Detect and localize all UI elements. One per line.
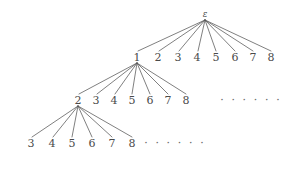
tree-node-level-0-root: ε xyxy=(203,10,208,19)
tree-node-level-1-3: 3 xyxy=(175,52,182,63)
tree-node-level-3-8: 8 xyxy=(129,138,136,149)
tree-node-level-3-4: 4 xyxy=(49,138,56,149)
tree-edge xyxy=(78,106,112,137)
tree-node-level-3-6: 6 xyxy=(89,138,96,149)
tree-node-level-1-5: 5 xyxy=(213,52,220,63)
tree-edge xyxy=(72,106,78,137)
tree-node-level-2-3: 3 xyxy=(93,95,100,106)
tree-edge xyxy=(137,63,168,94)
tree-edge xyxy=(159,20,205,51)
ellipsis-level-3: · · · · · · xyxy=(144,138,206,149)
tree-node-level-1-1: 1 xyxy=(134,52,141,63)
tree-node-level-2-8: 8 xyxy=(183,95,190,106)
tree-edge xyxy=(179,20,205,51)
tree-node-level-2-2: 2 xyxy=(75,95,82,106)
tree-edge xyxy=(138,20,205,51)
tree-edge xyxy=(205,20,235,51)
tree-edge xyxy=(32,106,78,137)
tree-edge xyxy=(137,63,186,94)
tree-node-level-3-3: 3 xyxy=(28,138,35,149)
tree-node-level-3-5: 5 xyxy=(69,138,76,149)
tree-node-level-2-7: 7 xyxy=(165,95,172,106)
tree-edges-layer xyxy=(0,0,287,178)
tree-diagram-figure: ε123456782345678· · · · · ·345678· · · ·… xyxy=(0,0,287,178)
tree-edge xyxy=(137,63,150,94)
tree-edge xyxy=(205,20,253,51)
tree-node-level-1-6: 6 xyxy=(232,52,239,63)
tree-edge xyxy=(205,20,271,51)
tree-edge xyxy=(132,63,137,94)
tree-node-level-1-8: 8 xyxy=(268,52,275,63)
tree-edge xyxy=(78,106,132,137)
tree-edge xyxy=(53,106,78,137)
tree-node-level-1-2: 2 xyxy=(155,52,162,63)
tree-edge xyxy=(115,63,137,94)
tree-edge xyxy=(97,63,137,94)
tree-node-level-2-4: 4 xyxy=(111,95,118,106)
tree-node-level-1-7: 7 xyxy=(250,52,257,63)
tree-edge xyxy=(78,106,92,137)
tree-node-level-1-4: 4 xyxy=(194,52,201,63)
tree-node-level-2-5: 5 xyxy=(129,95,136,106)
tree-edge xyxy=(79,63,137,94)
tree-node-level-2-6: 6 xyxy=(147,95,154,106)
tree-node-level-3-7: 7 xyxy=(109,138,116,149)
ellipsis-level-2: · · · · · · xyxy=(220,95,282,106)
